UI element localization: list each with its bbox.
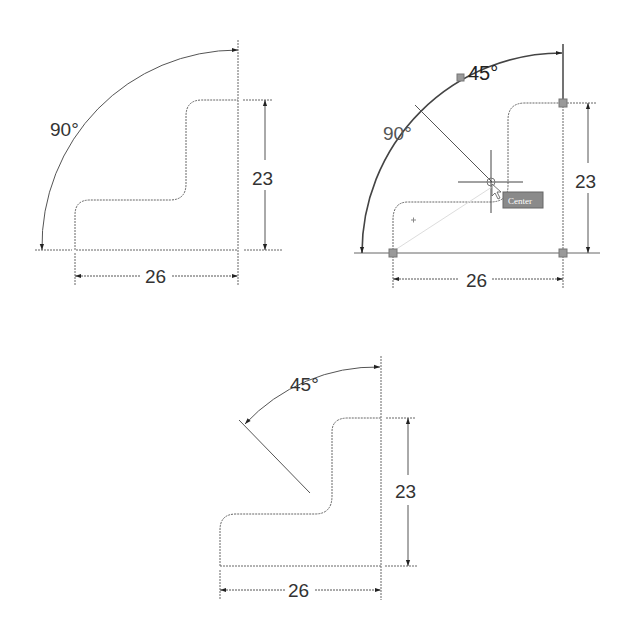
- angle-45-leader-line: [239, 420, 310, 493]
- angle-label-90: 90°: [50, 119, 79, 140]
- snap-tooltip-text: Center: [508, 196, 532, 206]
- grip-bottom-right[interactable]: [559, 249, 567, 257]
- grip-bottom-left[interactable]: [389, 249, 397, 257]
- angle-label-new: 45°: [468, 62, 498, 84]
- figure-3: [220, 356, 418, 600]
- construction-line: [395, 185, 495, 250]
- width-dim-label: 26: [466, 270, 487, 291]
- snap-tooltip: Center: [503, 192, 543, 208]
- height-dim-label: 23: [252, 168, 273, 189]
- drawing-canvas: 90° 23 26 Center 45° 90: [0, 0, 628, 622]
- angle-leader-line: [415, 105, 492, 182]
- grip-arc-midpoint[interactable]: [457, 74, 464, 81]
- shape-outline: [393, 103, 563, 253]
- angle-arc-90: [42, 50, 238, 250]
- figure-1: [35, 40, 282, 285]
- cursor-icon: [492, 184, 501, 199]
- grip-top-right[interactable]: [559, 99, 567, 107]
- width-dim-label: 26: [145, 266, 166, 287]
- shape-outline: [220, 418, 381, 566]
- angle-arc-editing: [362, 53, 562, 253]
- angle-label-old: 90°: [383, 123, 412, 144]
- width-dim-label: 26: [288, 580, 309, 601]
- height-dim-label: 23: [575, 171, 596, 192]
- shape-outline: [75, 100, 238, 250]
- plus-mark: [411, 218, 416, 223]
- angle-label-45: 45°: [290, 374, 319, 395]
- height-dim-label: 23: [395, 481, 416, 502]
